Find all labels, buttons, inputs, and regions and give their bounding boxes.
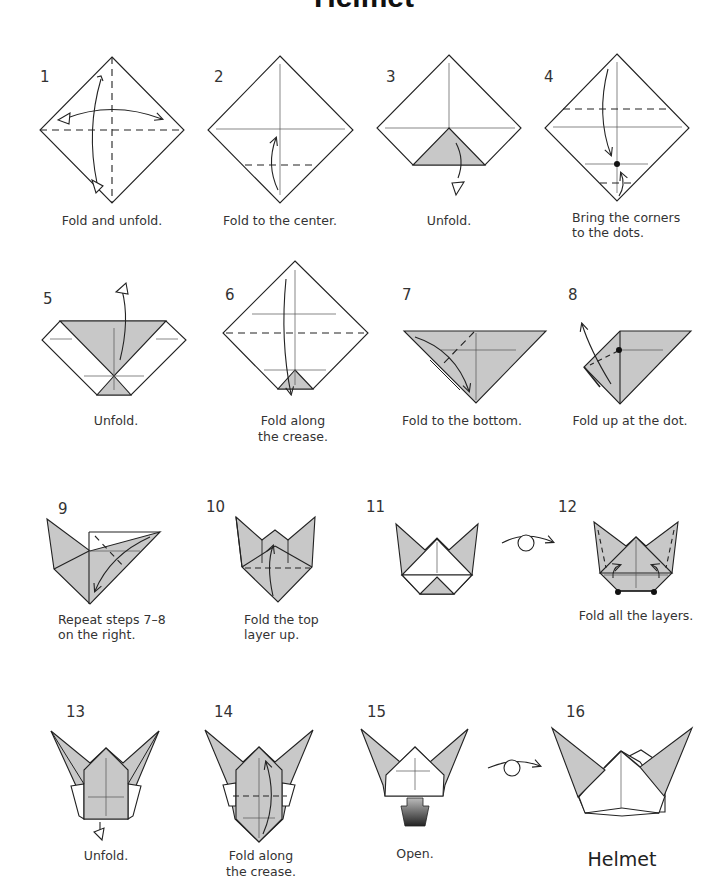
- step-number: 9: [58, 500, 68, 518]
- step-7: 7 Fold to the bottom.: [402, 286, 546, 428]
- step-caption: Open.: [396, 846, 433, 861]
- unfold-arrow-head: [452, 182, 464, 195]
- step-15: 15 Open.: [361, 703, 468, 861]
- step-caption: layer up.: [244, 627, 299, 642]
- step-14: 14 Fold along the crease.: [205, 703, 313, 879]
- step-12: 12 Fold all the layers.: [558, 498, 693, 623]
- folded-shape: [584, 331, 691, 404]
- white-corner: [71, 784, 84, 819]
- step-6: 6 Fold along the crease.: [223, 261, 368, 444]
- step-1: 1 Fold and unfold.: [40, 57, 184, 228]
- folded-triangle: [404, 331, 546, 403]
- step-caption: Fold up at the dot.: [572, 413, 687, 428]
- step-caption: to the dots.: [572, 225, 644, 240]
- step-caption: Unfold.: [94, 413, 139, 428]
- step-number: 1: [40, 68, 50, 86]
- step-caption: Unfold.: [427, 213, 472, 228]
- step-11: 11: [366, 498, 478, 594]
- reference-dot: [615, 589, 621, 595]
- reference-dot: [616, 347, 622, 353]
- unfold-arrow-head: [116, 283, 128, 294]
- reference-dot: [651, 589, 657, 595]
- step-number: 6: [225, 286, 235, 304]
- step-4: 4 Bring the corners to the dots.: [544, 54, 689, 240]
- step-number: 2: [214, 68, 224, 86]
- step-number: 5: [43, 290, 53, 308]
- step-13: 13 Unfold.: [51, 703, 159, 863]
- turn-over-icon: [488, 760, 540, 776]
- step-number: 12: [558, 498, 577, 516]
- turn-over-circle: [504, 760, 520, 776]
- step-2: 2 Fold to the center.: [208, 56, 353, 228]
- square-paper: [208, 56, 353, 203]
- reference-dot: [614, 161, 620, 167]
- turn-over-circle: [518, 535, 534, 551]
- step-caption: on the right.: [58, 627, 135, 642]
- step-caption: Fold along: [229, 848, 293, 863]
- step-caption: Repeat steps 7–8: [58, 612, 166, 627]
- step-number: 13: [66, 703, 85, 721]
- step-number: 4: [544, 68, 554, 86]
- step-number: 3: [386, 68, 396, 86]
- step-number: 11: [366, 498, 385, 516]
- step-number: 10: [206, 498, 225, 516]
- step-caption: Fold along: [261, 413, 325, 428]
- turn-over-icon: [502, 535, 553, 551]
- step-caption: Fold the top: [244, 612, 319, 627]
- step-number: 14: [214, 703, 233, 721]
- step-number: 7: [402, 286, 412, 304]
- step-caption: Unfold.: [84, 848, 129, 863]
- diagram-canvas: 1 Fold and unfold. 2 Fold to the center.…: [0, 0, 728, 895]
- step-number: 15: [367, 703, 386, 721]
- step-16: 16 Helmet: [552, 703, 692, 870]
- folded-shape: [236, 517, 315, 602]
- step-caption: the crease.: [258, 429, 328, 444]
- step-3: 3 Unfold.: [377, 55, 521, 228]
- step-caption: Fold all the layers.: [579, 608, 694, 623]
- step-9: 9 Repeat steps 7–8 on the right.: [47, 500, 166, 642]
- step-caption: Fold to the bottom.: [402, 413, 522, 428]
- step-number: 16: [566, 703, 585, 721]
- step-8: 8 Fold up at the dot.: [568, 286, 691, 428]
- white-corner: [223, 783, 236, 806]
- unfold-arrow-head: [94, 828, 104, 840]
- final-model-label: Helmet: [588, 848, 657, 870]
- step-5: 5 Unfold.: [42, 283, 186, 428]
- step-number: 8: [568, 286, 578, 304]
- white-corner: [128, 784, 141, 819]
- push-arrow-icon: [401, 798, 429, 826]
- step-caption: Fold to the center.: [223, 213, 337, 228]
- step-10: 10 Fold the top layer up.: [206, 498, 319, 642]
- step-caption: the crease.: [226, 864, 296, 879]
- step-caption: Bring the corners: [572, 210, 680, 225]
- white-panel: [385, 747, 444, 796]
- white-corner: [282, 783, 295, 806]
- step-caption: Fold and unfold.: [62, 213, 163, 228]
